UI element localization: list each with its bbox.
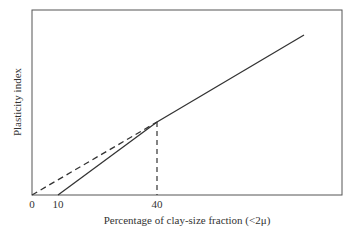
x-axis-label: Percentage of clay-size fraction (<2μ) <box>32 214 342 226</box>
solid-line-lower <box>58 122 157 195</box>
x-tick-10: 10 <box>53 198 64 210</box>
x-tick-40: 40 <box>152 198 163 210</box>
y-axis-label: Plasticity index <box>11 57 23 147</box>
dashed-extrapolation-line <box>32 122 157 195</box>
x-tick-0: 0 <box>29 198 35 210</box>
solid-line-upper <box>157 35 304 122</box>
